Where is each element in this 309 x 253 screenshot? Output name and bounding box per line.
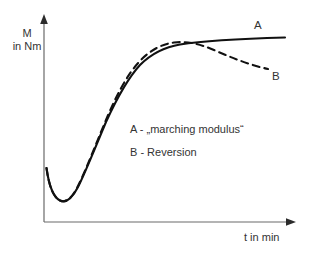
y-axis-label-line1: M: [22, 27, 31, 39]
curve-label-a: A: [254, 19, 262, 31]
arrow-right-icon: [286, 218, 296, 226]
rheometer-curve-figure: Min Nm t in min A B A - „marching modulu…: [0, 0, 309, 253]
legend-entry-b: B - Reversion: [130, 146, 197, 158]
legend-entry-a: A - „marching modulus“: [130, 123, 244, 135]
x-axis-label: t in min: [244, 231, 279, 244]
curve-a-marching-modulus: [47, 38, 286, 202]
arrow-up-icon: [40, 14, 48, 24]
curve-b-reversion: [47, 42, 269, 201]
y-axis-label-line2: in Nm: [13, 40, 42, 52]
y-axis-label: Min Nm: [7, 27, 47, 52]
curve-label-b: B: [272, 70, 280, 82]
